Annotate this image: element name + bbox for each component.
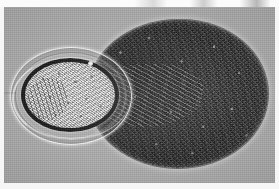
microscopy-field: [4, 7, 275, 183]
small-ovoid-body: [10, 47, 130, 143]
scan-artifact-strip: [0, 0, 279, 7]
photomicrograph-image: [0, 0, 279, 189]
envelope-highlight: [12, 57, 130, 140]
